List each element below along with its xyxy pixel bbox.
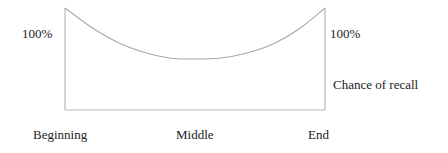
x-label-middle: Middle <box>176 127 214 142</box>
recall-curve <box>65 8 325 59</box>
x-label-beginning: Beginning <box>33 127 87 142</box>
y-axis-left-max-label: 100% <box>22 26 52 41</box>
x-label-end: End <box>308 127 329 142</box>
y-axis-title: Chance of recall <box>333 77 418 92</box>
y-axis-right-max-label: 100% <box>330 26 360 41</box>
